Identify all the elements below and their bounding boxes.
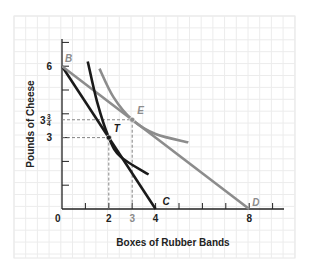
chart: BTECD 0 2348 33346 Boxes of Rubber Bands… [0,0,309,274]
y-tick-label: 6 [46,61,52,72]
point-label-e: E [137,105,144,116]
x-tick-label: 2 [106,213,112,224]
point-t [106,135,111,140]
y-axis-title: Pounds of Cheese [25,80,36,168]
y-tick-label-numerator: 3 [47,113,51,120]
x-tick-label: 3 [129,213,135,224]
origin-label: 0 [55,213,61,224]
point-label-b: B [65,53,72,64]
point-label-c: C [163,196,171,207]
point-label-t: T [114,123,121,134]
y-tick-label-denominator: 4 [47,120,51,127]
x-axis-title: Boxes of Rubber Bands [116,237,230,248]
x-tick-label: 8 [246,213,252,224]
point-e [130,117,135,122]
y-tick-label-whole: 3 [40,115,46,126]
x-tick-label: 4 [153,213,159,224]
point-label-d: D [252,197,259,208]
y-tick-label: 3 [46,132,52,143]
